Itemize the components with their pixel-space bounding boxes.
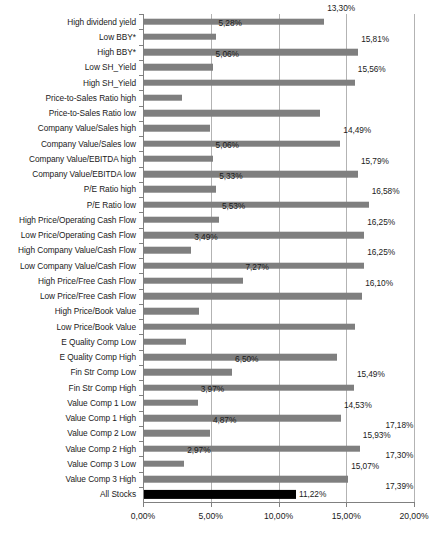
chart-row: All Stocks11,22% — [143, 487, 414, 502]
category-label: E Quality Comp Low — [61, 337, 136, 347]
category-label: Price-to-Sales Ratio high — [45, 93, 136, 103]
category-label: Low Price/Free Cash Flow — [40, 291, 136, 301]
category-tick — [139, 334, 143, 335]
value-label: 14,49% — [343, 125, 371, 135]
chart-row: E Quality Comp Low — [143, 334, 414, 349]
chart-row: Value Comp 3 High15,07% — [143, 472, 414, 487]
chart-row: Value Comp 1 High14,53% — [143, 411, 414, 426]
chart-row: E Quality Comp High — [143, 350, 414, 365]
chart-row: P/E Ratio low16,58% — [143, 197, 414, 212]
category-label: E Quality Comp High — [59, 352, 136, 362]
bar — [144, 445, 360, 452]
category-tick — [139, 350, 143, 351]
category-tick — [139, 395, 143, 396]
category-tick — [139, 487, 143, 488]
category-label: Company Value/Sales high — [38, 123, 136, 133]
category-label: Low SH_Yield — [85, 62, 136, 72]
category-label: Low BBY* — [99, 32, 136, 42]
x-axis-tick-label: 10,00% — [264, 511, 293, 521]
chart-row: Low Price/Book Value — [143, 319, 414, 334]
value-label: 16,58% — [372, 186, 400, 196]
category-label: Value Comp 2 High — [66, 444, 136, 454]
value-label: 15,81% — [361, 34, 389, 44]
value-label: 14,53% — [344, 400, 372, 410]
x-axis-tick — [279, 502, 280, 507]
bar-chart: High dividend yield13,30%Low BBY*5,28%Hi… — [0, 0, 432, 550]
category-label: Company Value/EBITDA high — [29, 154, 136, 164]
category-label: Fin Str Comp Low — [70, 367, 136, 377]
chart-row: High BBY*15,81% — [143, 45, 414, 60]
category-label: Value Comp 1 Low — [67, 398, 136, 408]
value-label: 15,49% — [357, 369, 385, 379]
category-label: High Price/Book Value — [55, 306, 136, 316]
category-tick — [139, 167, 143, 168]
bar — [144, 400, 198, 407]
bar — [144, 369, 232, 376]
category-label: P/E Ratio low — [87, 200, 136, 210]
value-label: 15,93% — [363, 430, 391, 440]
value-label: 5,28% — [219, 18, 242, 28]
value-label: 3,97% — [201, 384, 224, 394]
chart-row: Company Value/Sales high — [143, 121, 414, 136]
value-label: 11,22% — [299, 489, 326, 499]
chart-row: Low Price/Operating Cash Flow16,25% — [143, 228, 414, 243]
category-tick — [139, 45, 143, 46]
bar — [144, 95, 182, 102]
category-tick — [139, 441, 143, 442]
chart-row: High SH_Yield15,56% — [143, 75, 414, 90]
chart-row: Company Value/Sales low14,49% — [143, 136, 414, 151]
category-label: All Stocks — [100, 489, 136, 499]
bar — [144, 186, 216, 193]
category-label: High Price/Free Cash Flow — [38, 276, 136, 286]
value-label: 2,97% — [187, 445, 210, 455]
category-tick — [139, 365, 143, 366]
x-axis-tick — [414, 502, 415, 507]
plot-area: High dividend yield13,30%Low BBY*5,28%Hi… — [143, 14, 414, 502]
category-tick — [139, 228, 143, 229]
bar — [144, 156, 213, 163]
category-label: High Company Value/Cash Flow — [18, 245, 136, 255]
category-tick — [139, 243, 143, 244]
category-tick — [139, 258, 143, 259]
category-label: Value Comp 1 High — [66, 413, 136, 423]
value-label: 5,53% — [222, 201, 245, 211]
category-tick — [139, 456, 143, 457]
category-label: High Price/Operating Cash Flow — [19, 215, 136, 225]
category-label: Value Comp 2 Low — [67, 428, 136, 438]
value-label: 17,30% — [385, 450, 413, 460]
value-label: 5,06% — [216, 140, 239, 150]
category-tick — [139, 273, 143, 274]
value-label: 4,87% — [213, 415, 236, 425]
bar — [144, 217, 219, 224]
category-label: Low Company Value/Cash Flow — [20, 261, 136, 271]
chart-row: High dividend yield13,30% — [143, 14, 414, 29]
x-axis-tick — [143, 502, 144, 507]
value-label: 7,27% — [246, 262, 269, 272]
category-tick — [139, 75, 143, 76]
category-tick — [139, 90, 143, 91]
bar — [144, 430, 210, 437]
category-tick — [139, 289, 143, 290]
category-label: Low Price/Operating Cash Flow — [21, 230, 136, 240]
category-tick — [139, 411, 143, 412]
chart-row: Fin Str Comp High15,49% — [143, 380, 414, 395]
value-label: 5,06% — [216, 49, 239, 59]
chart-row: High Price/Book Value — [143, 304, 414, 319]
category-tick — [139, 151, 143, 152]
category-label: Company Value/EBITDA low — [32, 169, 136, 179]
bar — [144, 476, 348, 483]
chart-row: Low Company Value/Cash Flow16,25% — [143, 258, 414, 273]
bar — [144, 64, 213, 71]
bar — [144, 110, 320, 117]
value-label: 16,25% — [367, 217, 395, 227]
bar — [144, 323, 355, 330]
category-label: Fin Str Comp High — [69, 383, 136, 393]
category-tick — [139, 212, 143, 213]
category-tick — [139, 182, 143, 183]
x-axis-tick-label: 15,00% — [332, 511, 361, 521]
x-axis-tick-label: 0,00% — [131, 511, 155, 521]
category-tick — [139, 14, 143, 15]
value-label: 17,39% — [385, 481, 413, 491]
bar — [144, 384, 354, 391]
value-label: 17,18% — [385, 420, 413, 430]
